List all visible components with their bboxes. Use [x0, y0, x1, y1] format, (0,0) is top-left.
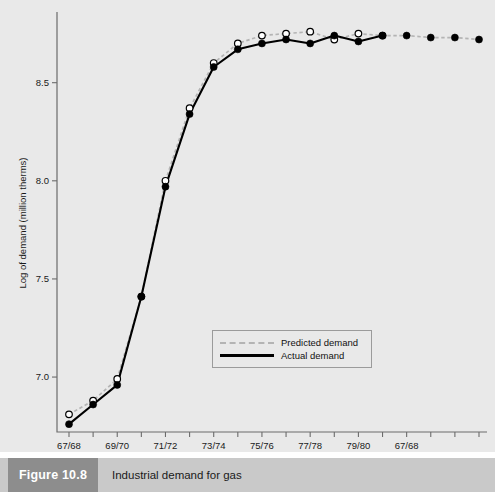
data-point-actual	[307, 40, 314, 47]
footer-note	[0, 494, 495, 504]
chart-legend: Predicted demand Actual demand	[212, 330, 372, 368]
data-point-forecast	[476, 36, 483, 43]
solid-line-icon	[220, 351, 274, 360]
figure-number-badge: Figure 10.8	[8, 458, 98, 492]
y-tick-label: 7.0	[36, 371, 49, 382]
data-point-actual	[283, 36, 290, 43]
figure-caption: Industrial demand for gas	[112, 458, 242, 492]
line-chart: 7.07.58.08.5Log of demand (million therm…	[0, 0, 495, 452]
dashed-line-icon	[220, 338, 274, 347]
data-point-actual	[210, 63, 217, 70]
data-point-actual	[234, 46, 241, 53]
data-point-actual	[331, 32, 338, 39]
data-point-predicted	[66, 411, 73, 418]
legend-label-predicted: Predicted demand	[281, 337, 358, 348]
data-point-actual	[379, 32, 386, 39]
y-tick-label: 8.5	[36, 77, 49, 88]
data-point-actual	[186, 111, 193, 118]
x-tick-label: 67/68	[57, 440, 81, 451]
data-point-actual	[66, 421, 73, 428]
data-point-actual	[138, 293, 145, 300]
data-point-actual	[355, 38, 362, 45]
data-point-actual	[114, 381, 121, 388]
y-tick-label: 8.0	[36, 175, 49, 186]
x-tick-label: 69/70	[105, 440, 129, 451]
y-tick-label: 7.5	[36, 273, 49, 284]
data-point-forecast	[451, 34, 458, 41]
chart-panel: 7.07.58.08.5Log of demand (million therm…	[0, 0, 495, 452]
legend-label-actual: Actual demand	[281, 350, 344, 361]
y-axis-title: Log of demand (million therms)	[17, 158, 28, 289]
figure-number-label: Figure 10.8	[19, 468, 87, 482]
data-point-forecast	[427, 34, 434, 41]
x-tick-label: 71/72	[154, 440, 178, 451]
data-point-actual	[90, 401, 97, 408]
data-point-actual	[162, 183, 169, 190]
legend-item-predicted: Predicted demand	[220, 336, 364, 349]
data-point-predicted	[307, 28, 314, 35]
x-tick-label: 79/80	[347, 440, 371, 451]
figure-page: 7.07.58.08.5Log of demand (million therm…	[0, 0, 495, 504]
x-tick-label: 73/74	[202, 440, 226, 451]
x-tick-label: 77/78	[298, 440, 322, 451]
data-point-predicted	[259, 32, 266, 39]
x-tick-label: 67/68	[395, 440, 419, 451]
data-point-predicted	[355, 30, 362, 37]
data-point-forecast	[403, 32, 410, 39]
legend-item-actual: Actual demand	[220, 349, 364, 362]
x-tick-label: 75/76	[250, 440, 274, 451]
data-point-actual	[258, 40, 265, 47]
